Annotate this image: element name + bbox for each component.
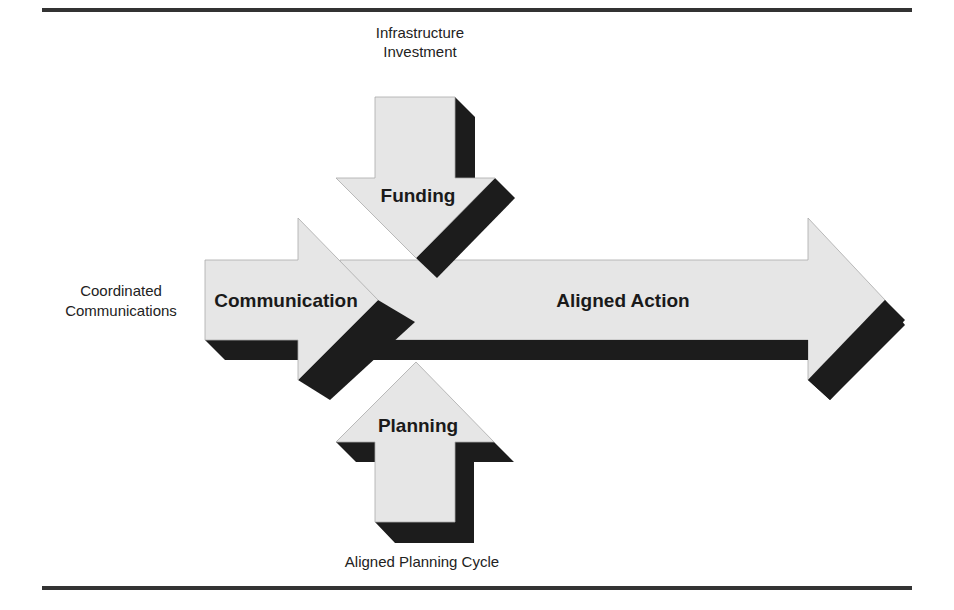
funding-caption-line2: Investment (383, 43, 457, 60)
communication-caption-line1: Coordinated (80, 282, 162, 299)
main-arrow-label: Aligned Action (556, 290, 689, 311)
funding-caption-line1: Infrastructure (376, 24, 464, 41)
funding-arrow-label: Funding (381, 185, 456, 206)
communication-caption-line2: Communications (65, 302, 177, 319)
communication-arrow: Communication (205, 218, 415, 400)
planning-caption: Aligned Planning Cycle (345, 553, 499, 570)
top-rule (42, 8, 912, 12)
planning-arrow-label: Planning (378, 415, 458, 436)
communication-arrow-label: Communication (214, 290, 358, 311)
diagram-canvas: Aligned Action Communication Funding Pla… (0, 0, 954, 610)
bottom-rule (42, 586, 912, 590)
planning-arrow: Planning (336, 362, 514, 543)
funding-arrow: Funding (336, 97, 515, 278)
